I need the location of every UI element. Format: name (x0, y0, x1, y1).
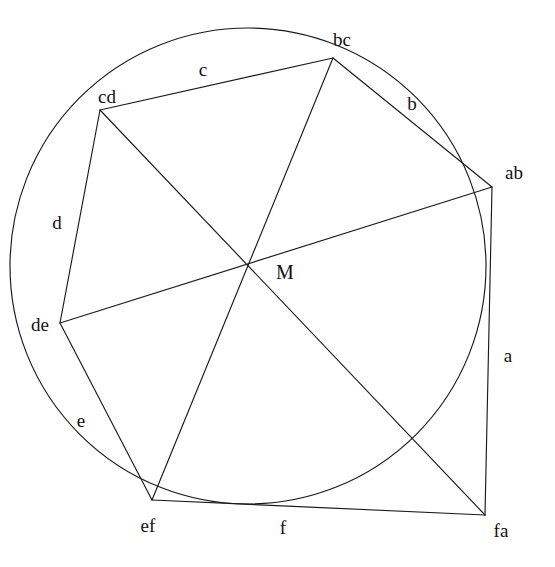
diagonal-cd-fa (100, 110, 485, 515)
tangent-label-b: b (407, 94, 417, 113)
diagonal-ab-de (60, 187, 492, 323)
vertex-label-bc: bc (333, 30, 351, 49)
side-f (152, 500, 485, 515)
side-d (60, 110, 100, 323)
vertex-label-fa: fa (494, 521, 509, 540)
geometry-canvas (0, 0, 555, 567)
side-e (60, 323, 152, 500)
tangent-label-f: f (280, 518, 286, 537)
vertex-label-ab: ab (505, 163, 523, 182)
side-c (100, 58, 333, 110)
diagonal-bc-ef (152, 58, 333, 500)
side-a (485, 187, 492, 515)
center-label-M: M (276, 262, 294, 282)
tangent-label-e: e (77, 411, 85, 430)
vertex-label-de: de (31, 315, 49, 334)
tangent-label-c: c (199, 60, 207, 79)
vertex-label-ef: ef (141, 516, 156, 535)
side-b (333, 58, 492, 187)
vertex-label-cd: cd (98, 87, 116, 106)
tangent-label-d: d (52, 213, 62, 232)
geometry-figure: M abbccddeeffaabcdef (0, 0, 555, 567)
hexagon-outline (60, 58, 492, 515)
tangent-label-a: a (504, 346, 512, 365)
